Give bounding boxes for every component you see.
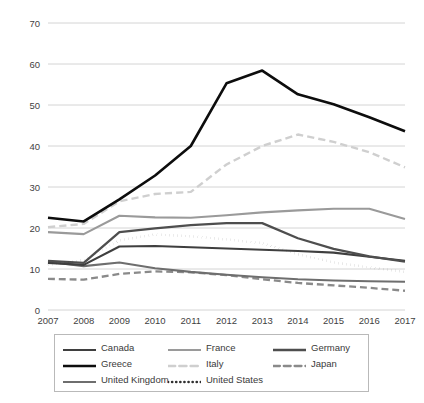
y-axis-tick-label: 30 xyxy=(29,182,40,193)
line-chart: 0102030405060702007200820092010201120122… xyxy=(0,0,424,403)
chart-legend: CanadaFranceGermanyGreeceItalyJapanUnite… xyxy=(54,334,369,392)
legend-item-label: Greece xyxy=(101,358,132,369)
y-axis-tick-label: 70 xyxy=(29,18,40,29)
x-axis-tick-label: 2013 xyxy=(252,315,273,326)
x-axis-tick-label: 2011 xyxy=(181,315,201,326)
y-axis-tick-label: 50 xyxy=(29,100,40,111)
legend-item-germany[interactable]: Germany xyxy=(273,342,368,353)
legend-item-japan[interactable]: Japan xyxy=(273,358,368,369)
series-line-germany xyxy=(48,223,405,263)
x-axis-tick-label: 2010 xyxy=(145,315,166,326)
x-axis-tick-label: 2017 xyxy=(394,315,415,326)
legend-item-label: United States xyxy=(206,374,263,385)
legend-item-label: Japan xyxy=(311,358,337,369)
legend-item-canada[interactable]: Canada xyxy=(63,342,168,353)
legend-item-italy[interactable]: Italy xyxy=(168,358,273,369)
y-axis-tick-label: 0 xyxy=(35,305,40,316)
legend-item-label: United Kingdom xyxy=(101,374,169,385)
x-axis-tick-label: 2007 xyxy=(37,315,58,326)
y-axis-tick-label: 60 xyxy=(29,59,40,70)
legend-item-united-states[interactable]: United States xyxy=(168,374,273,385)
x-axis-tick-label: 2016 xyxy=(359,315,380,326)
y-axis-tick-label: 10 xyxy=(29,264,40,275)
series-line-italy xyxy=(48,135,405,228)
legend-item-label: Italy xyxy=(206,358,223,369)
series-line-united-kingdom xyxy=(48,262,405,282)
legend-item-label: Canada xyxy=(101,342,134,353)
x-axis-tick-label: 2014 xyxy=(287,315,308,326)
legend-item-label: France xyxy=(206,342,236,353)
legend-item-united-kingdom[interactable]: United Kingdom xyxy=(63,374,168,385)
y-axis-tick-label: 20 xyxy=(29,223,40,234)
x-axis-tick-label: 2015 xyxy=(323,315,344,326)
x-axis-tick-label: 2009 xyxy=(109,315,130,326)
legend-item-greece[interactable]: Greece xyxy=(63,358,168,369)
x-axis-tick-label: 2012 xyxy=(216,315,237,326)
legend-item-france[interactable]: France xyxy=(168,342,273,353)
x-axis-tick-label: 2008 xyxy=(73,315,94,326)
y-axis-tick-label: 40 xyxy=(29,141,40,152)
legend-item-label: Germany xyxy=(311,342,350,353)
